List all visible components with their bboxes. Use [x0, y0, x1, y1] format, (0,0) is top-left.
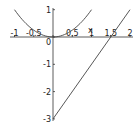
curves	[15, 10, 131, 119]
x-ticks: -1-0.50.511.52	[11, 29, 133, 38]
x-tick-label: 2	[127, 29, 132, 38]
y-tick-label: 0	[46, 38, 51, 47]
x-tick-label: -1	[11, 29, 19, 38]
y-tick-label: 1	[46, 6, 51, 15]
y-tick-label: -2	[43, 88, 51, 97]
y-tick-label: -1	[43, 60, 51, 69]
axes	[10, 8, 133, 121]
x-tick-label: 1.5	[104, 29, 117, 38]
x-axis-label: x	[88, 26, 93, 35]
plot-canvas: -1-0.50.511.52 10-1-2-3 x	[0, 0, 138, 129]
y-tick-label: -3	[43, 115, 51, 124]
